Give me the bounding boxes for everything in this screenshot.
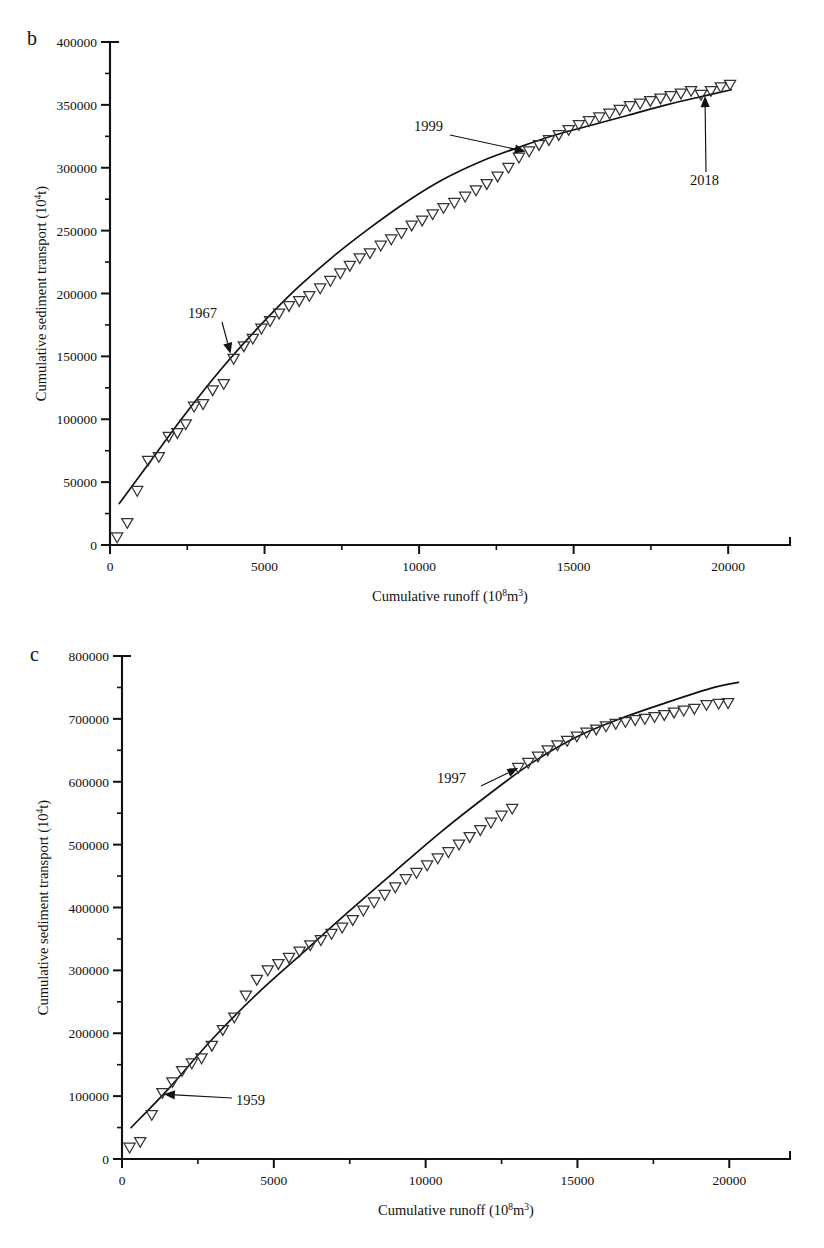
- x-tick-label: 0: [119, 1173, 126, 1188]
- data-point-marker: [337, 923, 348, 933]
- data-point-marker: [524, 147, 535, 157]
- y-tick-label: 100000: [69, 1089, 110, 1104]
- x-tick-label: 10000: [402, 559, 436, 574]
- y-tick-label: 400000: [69, 901, 110, 916]
- data-point-marker: [379, 890, 390, 900]
- data-point-marker: [485, 818, 496, 828]
- x-tick-label: 5000: [251, 559, 278, 574]
- data-point-marker: [335, 269, 346, 279]
- annotation-leader-line: [222, 322, 228, 343]
- data-point-marker: [207, 386, 218, 396]
- data-point-marker: [685, 87, 696, 97]
- y-tick-label: 300000: [69, 963, 110, 978]
- x-tick-label: 5000: [260, 1173, 287, 1188]
- panel-c: c 01000002000003000004000005000006000007…: [0, 624, 824, 1248]
- data-point-marker: [453, 840, 464, 850]
- data-point-marker: [315, 284, 326, 294]
- data-point-marker: [396, 229, 407, 239]
- data-point-marker: [386, 235, 397, 245]
- annotation-1967: 1967: [188, 305, 232, 354]
- data-point-marker: [713, 699, 724, 709]
- data-point-marker: [460, 192, 471, 202]
- x-tick-label: 0: [107, 559, 114, 574]
- data-point-marker: [273, 960, 284, 970]
- data-point-marker: [645, 97, 656, 107]
- data-point-marker: [443, 848, 454, 858]
- x-axis-title: Cumulative runoff (108m3): [372, 588, 528, 605]
- x-tick-label: 10000: [409, 1173, 443, 1188]
- data-point-marker: [449, 198, 460, 208]
- fit-curve: [119, 90, 731, 504]
- data-point-marker: [417, 216, 428, 226]
- x-tick-label: 15000: [557, 559, 591, 574]
- data-point-marker: [475, 826, 486, 836]
- y-tick-label: 200000: [69, 1026, 110, 1041]
- y-tick-label: 350000: [57, 98, 98, 113]
- annotation-label: 1959: [236, 1092, 265, 1108]
- data-point-marker: [496, 811, 507, 821]
- data-point-marker: [614, 105, 625, 115]
- y-tick-label: 100000: [57, 412, 98, 427]
- data-point-marker: [112, 533, 123, 543]
- data-point-marker: [347, 916, 358, 926]
- data-point-marker: [354, 254, 365, 264]
- data-point-marker: [411, 868, 422, 878]
- x-tick-label: 20000: [712, 1173, 746, 1188]
- annotation-arrow-head: [223, 342, 232, 354]
- annotation-leader-line: [481, 773, 508, 786]
- y-tick-label: 0: [90, 538, 97, 553]
- y-tick-label: 700000: [69, 712, 110, 727]
- data-point-marker: [240, 991, 251, 1001]
- data-point-marker: [122, 519, 133, 529]
- y-tick-label: 0: [102, 1152, 109, 1167]
- y-axis-title: Cumulative sediment transport (104t): [35, 800, 52, 1016]
- data-point-marker: [197, 400, 208, 410]
- data-point-marker: [251, 975, 262, 985]
- data-point-marker: [135, 1138, 146, 1148]
- annotation-leader-line: [705, 107, 706, 172]
- y-tick-label: 150000: [57, 349, 98, 364]
- panel-c-plot: 0100000200000300000400000500000600000700…: [0, 624, 824, 1248]
- panel-b-plot: 0500001000001500002000002500003000003500…: [0, 0, 824, 624]
- y-tick-label: 400000: [57, 35, 98, 50]
- y-tick-label: 50000: [63, 475, 97, 490]
- panel-b: b 05000010000015000020000025000030000035…: [0, 0, 824, 624]
- annotation-1997: 1997: [437, 768, 518, 786]
- data-point-marker: [218, 380, 229, 390]
- data-point-marker: [400, 875, 411, 885]
- data-point-marker: [724, 80, 735, 90]
- data-point-marker: [406, 221, 417, 231]
- fit-curve: [131, 682, 738, 1127]
- data-point-marker: [390, 883, 401, 893]
- y-tick-label: 800000: [69, 649, 110, 664]
- data-point-marker: [665, 92, 676, 102]
- data-point-marker: [689, 704, 700, 714]
- data-point-marker: [492, 172, 503, 182]
- data-point-marker: [132, 486, 143, 496]
- annotation-leader-line: [175, 1095, 232, 1098]
- data-point-marker: [604, 109, 615, 119]
- annotation-label: 1967: [188, 305, 217, 321]
- figure-double-mass-curves: b 05000010000015000020000025000030000035…: [0, 0, 824, 1248]
- y-tick-label: 200000: [57, 287, 98, 302]
- y-tick-label: 500000: [69, 838, 110, 853]
- y-tick-label: 300000: [57, 161, 98, 176]
- annotation-label: 1997: [437, 770, 466, 786]
- annotation-label: 1999: [414, 118, 443, 134]
- data-point-marker: [124, 1143, 135, 1153]
- x-axis-title: Cumulative runoff (108m3): [378, 1202, 534, 1219]
- data-point-marker: [325, 276, 336, 286]
- annotation-label: 2018: [690, 172, 719, 188]
- data-point-marker: [507, 804, 518, 814]
- x-tick-label: 20000: [711, 559, 745, 574]
- annotation-1999: 1999: [414, 118, 526, 154]
- y-tick-label: 600000: [69, 775, 110, 790]
- annotation-leader-line: [450, 135, 515, 149]
- data-point-marker: [438, 204, 449, 214]
- data-point-marker: [375, 241, 386, 251]
- data-point-marker: [503, 163, 514, 173]
- data-point-marker: [464, 833, 475, 843]
- axis-frame: [110, 42, 790, 545]
- data-point-marker: [675, 89, 686, 99]
- data-point-marker: [368, 898, 379, 908]
